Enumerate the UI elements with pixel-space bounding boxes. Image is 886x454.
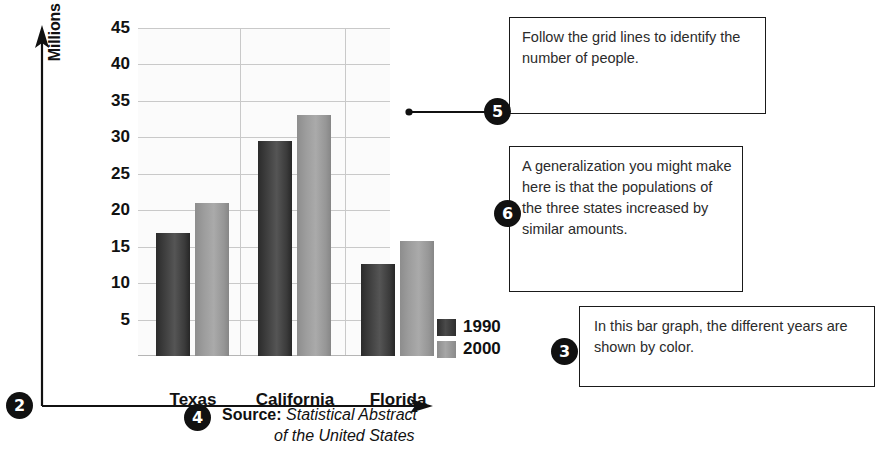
y-tick-label: 45	[111, 18, 130, 38]
source-title-line2: of the United States	[222, 426, 417, 447]
gridline-30: 30	[138, 137, 390, 138]
bar-graph-figure: Millions of People 45 40 35 30 25 20 15 …	[0, 0, 886, 454]
legend-item-1990: 1990	[437, 316, 501, 338]
legend-label-1990: 1990	[463, 317, 501, 337]
source-title-line1: Statistical Abstract	[286, 406, 417, 423]
legend-label-2000: 2000	[463, 339, 501, 359]
gridline-35: 35	[138, 101, 390, 102]
callout-badge-2: 2	[6, 392, 33, 419]
plot-area: 45 40 35 30 25 20 15 10 5	[138, 28, 390, 356]
callout-badge-4: 4	[184, 404, 211, 431]
y-tick-label: 30	[111, 127, 130, 147]
bar-texas-1990	[156, 233, 190, 356]
y-tick-label: 35	[111, 91, 130, 111]
source-attribution: Source: Statistical Abstract of the Unit…	[222, 405, 417, 447]
bar-florida-2000	[400, 241, 434, 356]
legend-swatch-icon-1990	[437, 319, 456, 336]
callout-box-6: A generalization you might make here is …	[509, 146, 743, 292]
y-tick-label: 15	[111, 237, 130, 257]
callout-box-5: Follow the grid lines to identify the nu…	[509, 17, 766, 114]
y-tick-label: 25	[111, 164, 130, 184]
bar-florida-1990	[361, 264, 395, 356]
y-tick-label: 40	[111, 54, 130, 74]
gridline-vertical	[345, 28, 346, 356]
callout-badge-6: 6	[494, 200, 521, 227]
callout-badge-3: 3	[551, 338, 578, 365]
bar-california-1990	[258, 141, 292, 356]
bar-california-2000	[297, 115, 331, 356]
legend: 1990 2000	[437, 316, 501, 360]
callout-box-3: In this bar graph, the different years a…	[579, 306, 875, 387]
y-tick-label: 5	[121, 310, 130, 330]
y-tick-label: 10	[111, 273, 130, 293]
y-tick-label: 20	[111, 200, 130, 220]
legend-swatch-icon-2000	[437, 341, 456, 358]
gridline-45: 45	[138, 28, 390, 29]
gridline-vertical	[240, 28, 241, 356]
legend-item-2000: 2000	[437, 338, 501, 360]
source-prefix-label: Source:	[222, 406, 282, 423]
gridline-40: 40	[138, 64, 390, 65]
callout-badge-5: 5	[484, 98, 511, 125]
y-axis-title: Millions of People	[46, 0, 72, 110]
bar-texas-2000	[195, 203, 229, 356]
